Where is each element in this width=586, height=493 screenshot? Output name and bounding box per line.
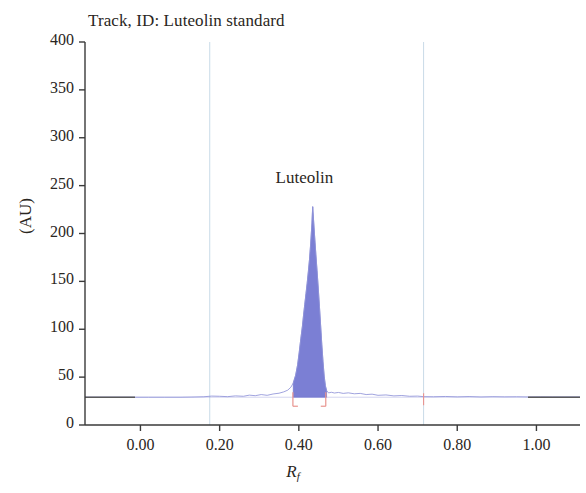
axis-lines [79, 42, 580, 431]
peak-fill [293, 207, 326, 398]
signal-trace [85, 207, 580, 398]
trace-line [85, 207, 580, 398]
peak-annotation-label: Luteolin [276, 168, 334, 188]
peak-area [293, 207, 326, 398]
chromatogram-chart: Track, ID: Luteolin standard (AU) Rf 050… [0, 0, 586, 493]
plot-canvas [0, 0, 586, 493]
